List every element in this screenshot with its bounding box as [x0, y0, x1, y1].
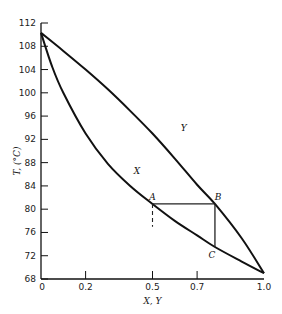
label-x: X — [133, 166, 141, 176]
y-tick-label: 100 — [19, 88, 36, 98]
y-axis-title: T, (°C) — [12, 146, 22, 175]
y-tick-label: 84 — [25, 181, 37, 191]
annotations: ABCXY — [133, 123, 222, 260]
label-b: B — [214, 192, 222, 202]
y-tick-label: 112 — [19, 18, 36, 28]
curves — [41, 33, 264, 273]
y-tick-label: 88 — [25, 158, 37, 168]
x-tick-label: 0.2 — [78, 282, 92, 292]
y-tick-label: 80 — [25, 204, 37, 214]
x-axis-title: X, Y — [142, 296, 162, 306]
x-tick-label: 1.0 — [257, 282, 272, 292]
curve-y — [41, 33, 264, 273]
y-tick-label: 72 — [25, 251, 36, 261]
x-tick-label: 0 — [39, 282, 45, 292]
label-c: C — [208, 250, 215, 260]
curve-x — [41, 33, 264, 273]
x-tick-label: 0.7 — [190, 282, 204, 292]
y-tick-label: 96 — [25, 111, 37, 121]
y-tick-label: 92 — [25, 134, 36, 144]
label-y: Y — [181, 123, 188, 133]
x-tick-label: 0.5 — [145, 282, 159, 292]
label-a: A — [148, 192, 156, 202]
y-tick-label: 76 — [25, 227, 37, 237]
y-tick-label: 68 — [25, 274, 37, 284]
txy-phase-diagram: 687276808488929610010410811200.20.50.71.… — [0, 0, 282, 314]
y-tick-label: 108 — [19, 41, 36, 51]
y-tick-label: 104 — [19, 65, 36, 75]
